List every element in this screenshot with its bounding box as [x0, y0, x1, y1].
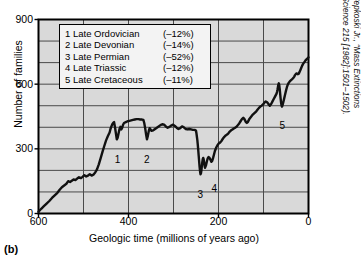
legend-row: 4 Late Triassic(–12%) [65, 62, 205, 73]
legend-row: 2 Late Devonian(–14%) [65, 39, 205, 50]
legend-event-name: 2 Late Devonian [65, 39, 163, 50]
source-citation: (Source: D.M. Raup and J.J. Sepkoski Jr.… [339, 0, 360, 116]
x-tick-label: 600 [21, 216, 57, 226]
legend-event-magnitude: (–12%) [163, 28, 205, 39]
y-tick-label: 300 [3, 143, 33, 153]
panel-label: (b) [4, 243, 18, 255]
extinction-marker-4: 4 [212, 184, 218, 194]
legend-row: 3 Late Permian(–52%) [65, 51, 205, 62]
y-tick-label: 600 [3, 79, 33, 89]
legend-box: 1 Late Ordovician(–12%)2 Late Devonian(–… [59, 24, 211, 89]
legend-event-magnitude: (–14%) [163, 39, 205, 50]
legend-event-name: 3 Late Permian [65, 51, 163, 62]
x-tick-label: 0 [291, 216, 327, 226]
legend-row: 5 Late Cretaceous(–11%) [65, 74, 205, 85]
legend-event-name: 5 Late Cretaceous [65, 74, 163, 85]
extinction-marker-5: 5 [280, 121, 286, 131]
extinction-marker-1: 1 [115, 155, 121, 165]
legend-event-magnitude: (–11%) [163, 74, 205, 85]
x-tick-label: 400 [111, 216, 147, 226]
extinction-marker-3: 3 [198, 190, 204, 200]
y-tick-label: 900 [3, 14, 33, 24]
x-tick-label: 200 [201, 216, 237, 226]
x-axis-title: Geologic time (millions of years ago) [38, 232, 310, 244]
legend-event-magnitude: (–52%) [163, 51, 205, 62]
legend-row: 1 Late Ordovician(–12%) [65, 28, 205, 39]
legend-event-name: 4 Late Triassic [65, 62, 163, 73]
legend-event-magnitude: (–12%) [163, 62, 205, 73]
extinction-marker-2: 2 [144, 155, 150, 165]
legend-event-name: 1 Late Ordovician [65, 28, 163, 39]
